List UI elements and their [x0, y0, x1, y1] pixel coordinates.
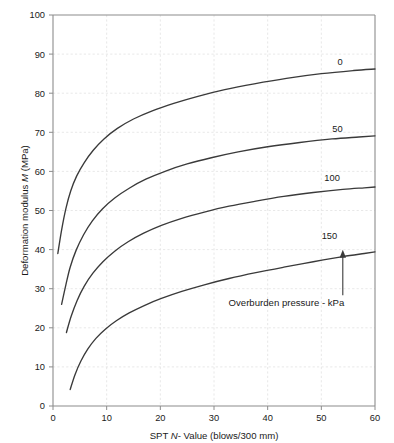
series-label-100: 100 [324, 173, 340, 183]
y-tick-label: 100 [29, 10, 45, 20]
x-tick-label: 20 [155, 413, 165, 423]
y-tick-label: 30 [35, 284, 45, 294]
y-tick-label: 20 [35, 323, 45, 333]
x-tick-label: 30 [209, 413, 219, 423]
y-tick-label: 0 [40, 401, 45, 411]
y-tick-label: 40 [35, 245, 45, 255]
x-tick-label: 10 [101, 413, 111, 423]
series-label-0: 0 [338, 57, 343, 67]
y-tick-label: 10 [35, 362, 45, 372]
y-tick-label: 80 [35, 89, 45, 99]
y-tick-label: 60 [35, 167, 45, 177]
y-tick-label: 50 [35, 206, 45, 216]
series-label-150: 150 [322, 231, 338, 241]
y-axis-title: Deformation modulus M (MPa) [19, 145, 30, 276]
y-tick-label: 90 [35, 50, 45, 60]
x-axis-title-variable: N [171, 430, 178, 441]
series-label-50: 50 [332, 124, 342, 134]
x-tick-label: 60 [370, 413, 380, 423]
chart-canvas: 0102030405060708090100 0102030405060 050… [0, 0, 394, 443]
y-axis-title-pre: Deformation modulus [19, 182, 30, 276]
y-axis-title-variable: M [19, 174, 30, 182]
annotation-label: Overburden pressure - kPa [229, 297, 345, 308]
y-axis-title-post: (MPa) [19, 145, 30, 174]
deformation-modulus-chart: 0102030405060708090100 0102030405060 050… [0, 0, 394, 443]
chart-background [0, 0, 394, 443]
x-axis-title-pre: SPT [150, 430, 171, 441]
x-tick-label: 50 [316, 413, 326, 423]
x-axis-title-post: - Value (blows/300 mm) [178, 430, 279, 441]
y-tick-label: 70 [35, 128, 45, 138]
x-tick-label: 40 [262, 413, 272, 423]
x-tick-label: 0 [50, 413, 55, 423]
x-axis-title: SPT N- Value (blows/300 mm) [150, 430, 279, 441]
